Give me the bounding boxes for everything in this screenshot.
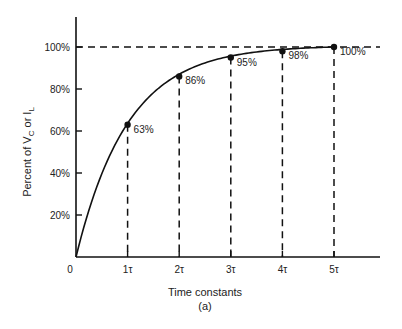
data-points: 63%86%95%98%100%: [124, 44, 365, 135]
x-tick-label: 0: [67, 264, 73, 275]
data-point: [124, 122, 130, 128]
x-tick-label: 5τ: [329, 264, 339, 275]
data-point-label: 95%: [237, 57, 257, 68]
x-tick-label: 4τ: [278, 264, 288, 275]
data-point-label: 63%: [134, 124, 154, 135]
y-tick-label: 100%: [44, 42, 70, 53]
y-axis-title: Percent of VC or IL: [21, 107, 36, 197]
data-point-label: 100%: [340, 46, 366, 57]
x-tick-label: 2τ: [174, 264, 184, 275]
dashed-guides: [76, 47, 380, 257]
y-tick-label: 60%: [50, 126, 70, 137]
data-point: [176, 73, 182, 79]
data-point: [228, 54, 234, 60]
data-point-label: 86%: [185, 75, 205, 86]
figure-caption: (a): [198, 300, 211, 312]
x-axis-title: Time constants: [168, 286, 243, 298]
x-tick-label: 3τ: [226, 264, 236, 275]
x-tick-label: 1τ: [123, 264, 133, 275]
y-tick-label: 80%: [50, 84, 70, 95]
data-point-label: 98%: [288, 50, 308, 61]
y-tick-label: 20%: [50, 210, 70, 221]
data-point: [331, 44, 337, 50]
data-point: [279, 48, 285, 54]
y-tick-label: 40%: [50, 168, 70, 179]
time-constant-chart: 63%86%95%98%100% 20%40%60%80%100%01τ2τ3τ…: [0, 0, 402, 329]
